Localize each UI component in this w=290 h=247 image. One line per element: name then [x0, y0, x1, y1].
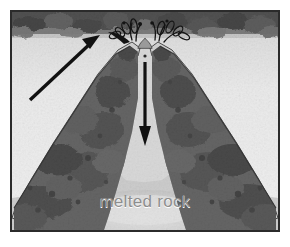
diagram-canvas	[12, 12, 278, 230]
volcano-cross-section-figure: melted rock	[10, 10, 280, 232]
seafloor-sediment-band	[12, 12, 278, 39]
